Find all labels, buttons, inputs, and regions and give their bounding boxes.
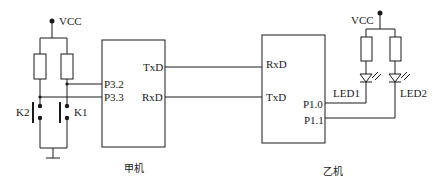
right-pin-rxd: RxD [266,58,287,70]
resistor-led2 [390,37,401,61]
right-mcu-box [262,35,325,143]
k1-label: K1 [74,106,87,118]
right-mcu-caption: 乙机 [323,165,343,177]
pin-p11: P1.1 [304,114,324,126]
left-vcc-label: VCC [59,15,82,27]
led2-symbol [389,72,410,82]
left-pin-rxd: RxD [142,91,163,103]
led1-label: LED1 [333,87,360,99]
led1-symbol [360,72,381,82]
pin-p32: P3.2 [104,78,124,90]
k2-label: K2 [16,106,29,118]
resistor-led1 [361,37,372,61]
ground-symbol [46,148,60,158]
left-vcc: VCC [50,15,82,38]
switch-k1: K1 [60,102,87,123]
switch-k2: K2 [16,102,42,123]
resistor-k1-pullup [61,54,73,79]
led2-label: LED2 [400,87,427,99]
left-pin-txd: TxD [143,61,163,73]
right-vcc-label: VCC [351,14,374,26]
right-pin-txd: TxD [266,91,286,103]
left-mcu-caption: 甲机 [124,162,144,174]
pin-p10: P1.0 [303,98,323,110]
circuit-diagram: VCC K2 K1 P3.2 P3.3 TxD RxD 甲机 Rx [0,0,436,188]
resistor-k2-pullup [34,54,46,79]
right-vcc: VCC [351,11,383,30]
pin-p33: P3.3 [104,91,124,103]
